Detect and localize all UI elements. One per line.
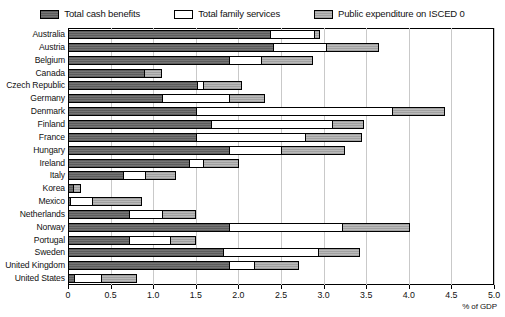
bar-stack [68,159,239,168]
legend-label-services: Total family services [198,9,280,19]
bar-segment [68,120,212,129]
category-label-australia: Australia [0,29,65,39]
bar-segment [162,94,230,103]
bar-segment [261,56,313,65]
x-axis-tick [238,285,239,289]
category-label-italy: Italy [0,170,65,180]
bar-stack [68,81,242,90]
bar-segment [68,133,197,142]
x-axis-tick-label: 0.5 [91,290,131,301]
bar-segment [203,81,242,90]
bar-segment [170,236,196,245]
legend-swatch-icon-isced [314,10,333,19]
bar-segment [254,261,299,270]
legend-swatch-icon-cash [40,10,59,19]
chart-row: Hungary [0,144,505,157]
bar-stack [68,197,142,206]
bar-segment [68,69,145,78]
bar-segment [196,107,394,116]
bar-stack [68,261,299,270]
chart-row: Korea [0,182,505,195]
bar-stack [68,236,196,245]
x-axis-tick-label: 5.0 [474,290,505,301]
chart-row: Finland [0,118,505,131]
bar-stack [68,184,81,193]
bar-segment [92,197,141,206]
bar-segment [68,43,274,52]
chart-legend: Total cash benefits Total family service… [0,6,505,22]
bar-stack [68,43,379,52]
category-label-mexico: Mexico [0,196,65,206]
x-axis-tick [494,285,495,289]
bar-segment [68,236,130,245]
x-axis-tick-label: 1.0 [133,290,173,301]
x-axis-tick-label: 4.5 [431,290,471,301]
legend-item-total-cash-benefits: Total cash benefits [40,9,140,19]
bar-stack [68,146,345,155]
chart-rows: AustraliaAustriaBelgiumCanadaCzech Repub… [0,28,505,285]
bar-segment [68,171,124,180]
bar-stack [68,30,320,39]
x-axis-tick-label: 3.5 [346,290,386,301]
bar-segment [196,133,307,142]
bar-segment [305,133,361,142]
bar-segment [273,43,327,52]
bar-segment [392,107,445,116]
bar-segment [203,159,239,168]
x-axis-tick [153,285,154,289]
bar-segment [318,248,360,257]
chart-row: Denmark [0,105,505,118]
chart-row: United States [0,272,505,285]
bar-segment [229,223,343,232]
legend-swatch-icon-services [174,10,193,19]
bar-stack [68,171,176,180]
chart-row: Netherlands [0,208,505,221]
bar-segment [123,171,146,180]
bar-segment [101,274,137,283]
legend-label-isced: Public expenditure on ISCED 0 [338,9,465,19]
bar-segment [229,261,255,270]
bar-segment [68,56,230,65]
category-label-denmark: Denmark [0,106,65,116]
category-label-sweden: Sweden [0,247,65,257]
bar-segment [281,146,346,155]
bar-stack [68,223,410,232]
bar-segment [314,30,320,39]
chart-row: Australia [0,28,505,41]
x-axis-tick [366,285,367,289]
bar-segment [145,171,176,180]
chart-row: United Kingdom [0,259,505,272]
chart-row: Germany [0,92,505,105]
category-label-finland: Finland [0,119,65,129]
chart-row: Czech Republic [0,79,505,92]
chart-row: Ireland [0,157,505,170]
x-axis-tick [281,285,282,289]
bar-segment [189,159,204,168]
bar-stack [68,120,364,129]
x-axis-tick-labels: 00.51.01.52.02.53.03.54.04.55.0 [0,290,505,302]
bar-stack [68,56,313,65]
bar-segment [68,94,163,103]
bar-segment [326,43,379,52]
bar-segment [144,69,163,78]
category-label-netherlands: Netherlands [0,209,65,219]
bar-segment [68,248,224,257]
bar-segment [332,120,364,129]
x-axis-tick-label: 3.0 [304,290,344,301]
bar-stack [68,69,162,78]
bar-segment [211,120,333,129]
bar-stack [68,210,196,219]
chart-row: Portugal [0,234,505,247]
chart-row: Norway [0,221,505,234]
category-label-belgium: Belgium [0,55,65,65]
bar-segment [162,210,196,219]
bar-stack [68,107,445,116]
x-axis-title: % of GDP [462,302,497,312]
bar-segment [68,261,230,270]
category-label-united-kingdom: United Kingdom [0,260,65,270]
bar-segment [229,94,265,103]
category-label-austria: Austria [0,42,65,52]
category-label-norway: Norway [0,222,65,232]
bar-segment [223,248,319,257]
x-axis-tick [68,285,69,289]
